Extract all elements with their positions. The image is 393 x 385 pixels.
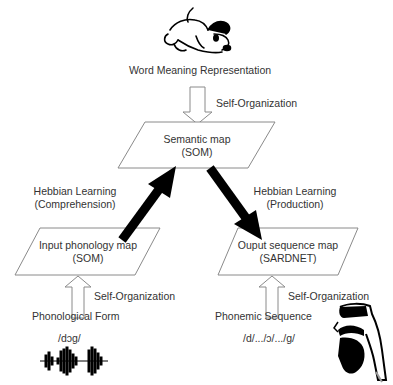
word-meaning-caption: Word Meaning Representation <box>95 64 305 77</box>
input-map-line2: (SOM) <box>28 252 148 265</box>
semantic-map-title: Semantic map (SOM) <box>150 133 244 159</box>
phonological-form-label: Phonological Form <box>32 310 120 323</box>
self-organization-label-right: Self-Organization <box>288 290 369 303</box>
hebbian-left-line2: (Comprehension) <box>20 198 130 211</box>
hebbian-right-line1: Hebbian Learning <box>240 185 350 198</box>
hebbian-comprehension-label: Hebbian Learning (Comprehension) <box>20 185 130 211</box>
semantic-map-line1: Semantic map <box>150 133 244 146</box>
phonemic-transcription: /d/.../ɔ/.../g/ <box>243 332 295 345</box>
self-organization-label-top: Self-Organization <box>216 97 297 110</box>
phonological-transcription: /dɔg/ <box>58 332 81 345</box>
waveform-icon <box>40 347 108 375</box>
self-organization-label-left: Self-Organization <box>94 290 175 303</box>
dog-icon <box>165 8 231 53</box>
output-map-line2: (SARDNET) <box>228 252 348 265</box>
input-map-line1: Input phonology map <box>28 239 148 252</box>
input-phonology-map-title: Input phonology map (SOM) <box>28 239 148 265</box>
vocal-tract-head-icon <box>334 304 386 382</box>
hebbian-left-line1: Hebbian Learning <box>20 185 130 198</box>
phonemic-sequence-label: Phonemic Sequence <box>215 310 312 323</box>
output-sequence-map-title: Ouput sequence map (SARDNET) <box>228 239 348 265</box>
hebbian-production-label: Hebbian Learning (Production) <box>240 185 350 211</box>
self-organization-arrow-top <box>183 87 212 124</box>
hebbian-right-line2: (Production) <box>240 198 350 211</box>
output-map-line1: Ouput sequence map <box>228 239 348 252</box>
semantic-map-line2: (SOM) <box>150 146 244 159</box>
